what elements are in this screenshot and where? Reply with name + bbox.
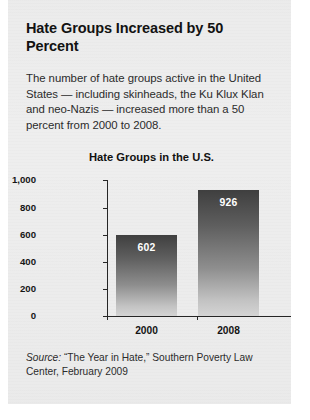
y-axis-tick <box>103 180 107 181</box>
x-axis-category-label: 2008 <box>184 325 274 336</box>
y-axis-tick-label: 1,000 <box>8 174 36 185</box>
source-citation: Source: “The Year in Hate,” Southern Pov… <box>26 341 273 379</box>
y-axis-line <box>107 180 108 316</box>
lede-paragraph: The number of hate groups active in the … <box>26 55 273 133</box>
x-axis-tick <box>197 316 198 320</box>
bar-chart: Hate Groups in the U.S. 02004006008001,0… <box>26 151 273 341</box>
bar-value-label: 926 <box>198 197 259 208</box>
bar-value-label: 602 <box>116 242 177 253</box>
y-axis-tick-label: 200 <box>8 283 36 294</box>
y-axis-tick <box>103 316 107 317</box>
y-axis-tick <box>103 262 107 263</box>
y-axis-tick <box>103 235 107 236</box>
bar: 926 <box>198 190 259 316</box>
x-axis-line <box>107 316 291 317</box>
chart-plot-area: 02004006008001,000 602926 20002008 <box>26 180 273 330</box>
x-axis-category-label: 2000 <box>102 325 192 336</box>
infographic-panel: Hate Groups Increased by 50 Percent The … <box>8 0 291 404</box>
bar: 602 <box>116 235 177 317</box>
x-axis-tick <box>107 316 108 320</box>
y-axis-tick-label: 600 <box>8 229 36 240</box>
y-axis-tick <box>103 289 107 290</box>
y-axis-tick-label: 800 <box>8 202 36 213</box>
page-title: Hate Groups Increased by 50 Percent <box>26 0 273 55</box>
y-axis-tick <box>103 208 107 209</box>
source-label: Source: <box>26 352 61 363</box>
chart-title: Hate Groups in the U.S. <box>26 151 273 163</box>
y-axis-tick-label: 0 <box>8 310 36 321</box>
y-axis-tick-label: 400 <box>8 256 36 267</box>
